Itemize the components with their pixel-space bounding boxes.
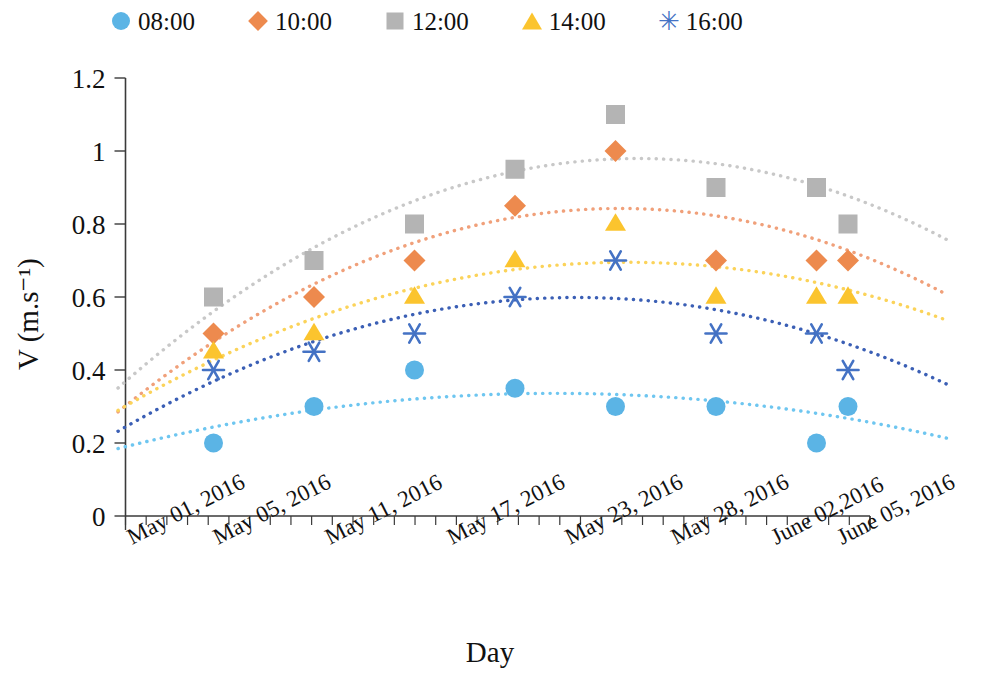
point-0800-5 [707, 397, 726, 416]
y-axis-ticks: 00.20.40.60.811.2 [72, 64, 126, 532]
x-tick-label: May 17, 2016 [443, 469, 569, 550]
point-1400-4 [605, 213, 626, 231]
x-axis-labels: May 01, 2016May 05, 2016May 11, 2016May … [123, 469, 959, 550]
wind-speed-scatter-chart: 08:0010:0012:0014:00✳16:00 00.20.40.60.8… [0, 0, 983, 682]
point-1400-3 [505, 250, 526, 268]
y-tick-label: 1.2 [72, 64, 106, 94]
point-1600-7 [838, 361, 859, 379]
point-1200-7 [839, 215, 858, 234]
point-1200-3 [506, 160, 525, 179]
y-tick-label: 0 [92, 502, 106, 532]
point-1000-2 [404, 250, 426, 272]
point-1000-1 [303, 286, 325, 308]
point-1000-6 [806, 250, 828, 272]
data-points [203, 105, 860, 453]
point-1000-3 [504, 195, 526, 217]
axis-titles: V (m.s⁻¹)Day [12, 258, 515, 668]
point-1200-1 [305, 251, 324, 270]
point-0800-2 [405, 361, 424, 380]
point-1600-4 [605, 251, 626, 269]
x-tick-label: May 11, 2016 [321, 469, 446, 549]
point-0800-7 [839, 397, 858, 416]
point-1200-4 [606, 105, 625, 124]
y-tick-label: 0.4 [72, 356, 106, 386]
y-tick-label: 0.2 [72, 429, 106, 459]
trend-line-1000 [118, 208, 947, 411]
point-1400-5 [706, 286, 727, 304]
point-1400-0 [203, 341, 224, 359]
plot-svg: 00.20.40.60.811.2May 01, 2016May 05, 201… [0, 0, 983, 682]
x-tick-label: May 23, 2016 [561, 469, 687, 550]
point-1400-6 [806, 286, 827, 304]
axes [126, 78, 871, 516]
point-1600-5 [706, 324, 727, 342]
point-0800-3 [506, 379, 525, 398]
point-1600-2 [404, 324, 425, 342]
point-1600-6 [806, 324, 827, 342]
x-axis-title: Day [466, 636, 515, 668]
y-tick-label: 0.6 [72, 283, 106, 313]
point-1400-7 [838, 286, 859, 304]
plot-area: 00.20.40.60.811.2May 01, 2016May 05, 201… [0, 0, 983, 682]
point-0800-6 [807, 434, 826, 453]
point-0800-4 [606, 397, 625, 416]
point-1400-1 [304, 323, 325, 341]
point-1600-0 [203, 361, 224, 379]
trend-line-1600 [118, 297, 947, 431]
point-1200-5 [707, 178, 726, 197]
point-1200-2 [405, 215, 424, 234]
point-1600-3 [505, 288, 526, 306]
point-1200-0 [204, 288, 223, 307]
point-0800-0 [204, 434, 223, 453]
point-1400-2 [404, 286, 425, 304]
point-1000-5 [705, 250, 727, 272]
point-1000-4 [605, 140, 627, 162]
y-tick-label: 0.8 [72, 210, 106, 240]
y-tick-label: 1 [92, 137, 106, 167]
point-1200-6 [807, 178, 826, 197]
point-0800-1 [305, 397, 324, 416]
y-axis-title: V (m.s⁻¹) [12, 258, 45, 370]
